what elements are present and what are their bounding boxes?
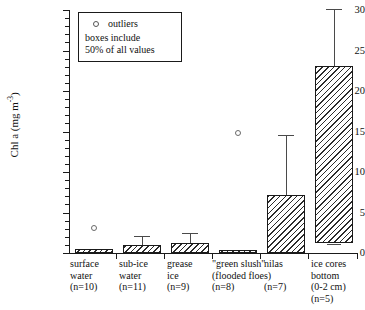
whisker-cap-upper [278,135,295,136]
x-axis-line [69,253,358,254]
x-category-line: water [70,270,116,282]
legend-entry-outliers: outliers [85,18,175,29]
box-green-slush[interactable] [219,10,257,253]
x-category-line: nilas [264,258,306,270]
box-body [171,243,209,254]
box-nilas[interactable] [267,10,305,253]
y-axis-title-text: Chl a (mg m [8,102,20,157]
y-axis-title: Chl a (mg m-3) [6,50,20,200]
x-category-line: surface [70,258,116,270]
legend-label: outliers [108,18,138,29]
x-category-nilas: nilas (n=7) [264,258,306,293]
x-category-grease-ice: grease ice (n=9) [167,258,211,293]
x-category-line: (n=5) [311,293,365,305]
whisker-upper [142,237,143,245]
outlier-point [235,130,241,136]
legend: outliers boxes include 50% of all values [78,12,182,62]
box-body [75,249,113,254]
x-category-line [264,270,306,282]
box-ice-cores-bottom[interactable] [315,10,353,253]
whisker-upper [286,136,287,195]
whisker-cap-lower [327,244,341,245]
x-category-ice-cores-bottom: ice cores bottom (0-2 cm) (n=5) [311,258,365,304]
x-category-sub-ice-water: sub-ice water (n=11) [119,258,165,293]
x-category-line: ice cores [311,258,365,270]
whisker-cap-upper [182,233,197,234]
box-body [219,250,257,253]
x-category-surface-water: surface water (n=10) [70,258,116,293]
whisker-cap-upper [134,236,149,237]
x-tick [308,254,309,259]
x-category-line: grease [167,258,211,270]
open-circle-icon [93,21,99,27]
x-category-line: (n=9) [167,281,211,293]
whisker-upper [190,234,191,243]
whisker-upper [334,10,335,66]
x-category-line: (n=11) [119,281,165,293]
box-body [267,195,305,253]
box-body [123,245,161,253]
x-category-line: bottom [311,270,365,282]
x-category-line: sub-ice [119,258,165,270]
outlier-point [91,225,97,231]
x-category-line: (n=10) [70,281,116,293]
x-category-line: water [119,270,165,282]
box-plot-figure: Chl a (mg m-3) 30 25 20 15 10 5 0 [0,0,365,310]
whisker-cap-upper [326,9,343,10]
x-tick [116,254,117,259]
y-axis-title-exponent: -3 [6,96,15,102]
box-body [315,66,353,243]
legend-note-line-1: boxes include [85,32,175,44]
x-category-line: (n=7) [264,281,306,293]
x-category-line: ice [167,270,211,282]
legend-note-line-2: 50% of all values [85,44,175,56]
x-category-line: (0-2 cm) [311,281,365,293]
